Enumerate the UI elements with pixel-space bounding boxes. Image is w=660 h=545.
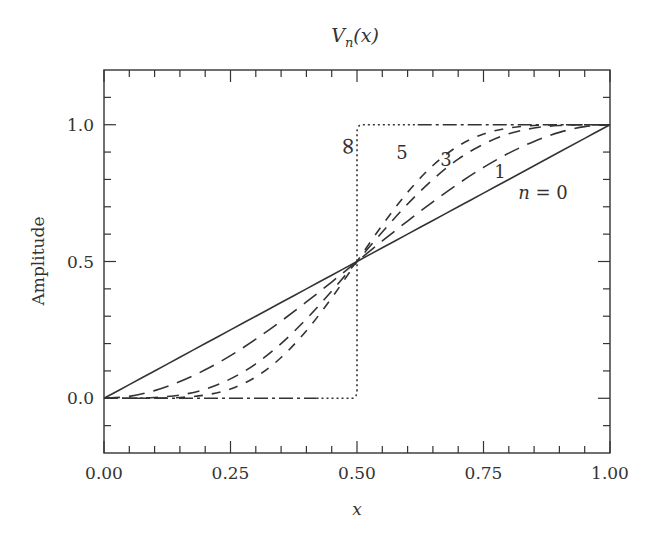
svg-text:0.5: 0.5 [67,252,94,272]
x-tick-labels: 0.000.250.500.751.00 [85,463,629,483]
svg-text:0.50: 0.50 [338,463,376,483]
svg-text:0.25: 0.25 [212,463,250,483]
svg-text:0.00: 0.00 [85,463,123,483]
chart-title: Vn(x) [331,24,379,50]
chart: Vn(x) 0.000.250.500.751.00 0.00.51.0 x A… [0,0,660,545]
label-n-inf: ∞ [335,136,363,156]
svg-text:0.75: 0.75 [465,463,503,483]
svg-text:1.00: 1.00 [591,463,629,483]
y-axis-label: Amplitude [28,217,48,307]
svg-text:0.0: 0.0 [67,388,94,408]
label-n1: 1 [494,161,505,182]
label-n3: 3 [440,149,451,170]
label-n5: 5 [396,142,407,163]
label-n0: n = 0 [518,182,568,203]
curves [104,125,610,399]
x-axis-label: x [352,499,362,519]
svg-text:1.0: 1.0 [67,115,94,135]
y-tick-labels: 0.00.51.0 [67,115,94,409]
